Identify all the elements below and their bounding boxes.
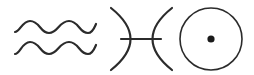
astrological-symbols-row: Aquarius Pisces Sun: [0, 0, 254, 75]
aquarius-icon: [15, 21, 96, 54]
sun-icon: [180, 8, 242, 70]
pisces-icon: [111, 8, 172, 70]
